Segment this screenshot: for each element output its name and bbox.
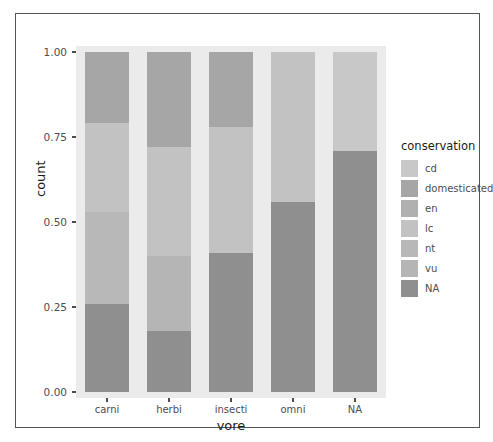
chart-figure: count 0.000.250.500.751.00 carniherbiins… — [0, 0, 493, 442]
legend-items: cddomesticatedenlcntvuNA — [401, 159, 493, 297]
y-axis-title: count — [33, 160, 48, 197]
legend-item-nt[interactable]: nt — [401, 239, 493, 257]
x-tick-label-NA: NA — [315, 405, 395, 415]
y-tick-mark — [72, 306, 76, 308]
bar-herbi[interactable] — [147, 52, 190, 398]
y-tick-label: 0.00 — [26, 387, 67, 398]
x-axis-title: vore — [76, 418, 386, 433]
legend-item-en[interactable]: en — [401, 199, 493, 217]
bar-segment-herbi-NA[interactable] — [147, 331, 190, 392]
y-tick-mark — [72, 221, 76, 223]
bar-segment-omni-NA[interactable] — [271, 202, 314, 392]
legend-item-NA[interactable]: NA — [401, 279, 493, 297]
legend-label-lc: lc — [425, 223, 433, 234]
legend-swatch-NA — [401, 280, 418, 297]
x-tick-mark — [106, 398, 108, 402]
bar-segment-carni-nt[interactable] — [85, 212, 128, 304]
x-tick-mark — [168, 398, 170, 402]
bar-segment-NA-lc[interactable] — [333, 52, 376, 151]
bar-omni[interactable] — [271, 52, 314, 398]
legend-title: conservation — [401, 139, 493, 153]
bar-segment-carni-domesticated[interactable] — [85, 52, 128, 123]
figure-frame: count 0.000.250.500.751.00 carniherbiins… — [15, 13, 480, 428]
bar-segment-insecti-lc[interactable] — [209, 127, 252, 253]
plot-panel — [76, 46, 386, 398]
y-tick-label: 0.50 — [26, 217, 67, 228]
legend-swatch-vu — [401, 260, 418, 277]
legend-swatch-cd — [401, 160, 418, 177]
x-tick-mark — [292, 398, 294, 402]
x-tick-mark — [354, 398, 356, 402]
y-tick-mark — [72, 391, 76, 393]
bar-segment-herbi-lc[interactable] — [147, 147, 190, 256]
y-tick-mark — [72, 136, 76, 138]
y-tick-label: 0.25 — [26, 302, 67, 313]
legend-label-nt: nt — [425, 243, 435, 254]
legend: conservation cddomesticatedenlcntvuNA — [401, 139, 493, 299]
legend-swatch-lc — [401, 220, 418, 237]
legend-swatch-domesticated — [401, 180, 418, 197]
bar-segment-carni-NA[interactable] — [85, 304, 128, 392]
y-tick-label: 1.00 — [26, 47, 67, 58]
y-tick-mark — [72, 51, 76, 53]
bar-NA[interactable] — [333, 52, 376, 398]
bar-segment-herbi-domesticated[interactable] — [147, 52, 190, 147]
y-tick-label: 0.75 — [26, 132, 67, 143]
legend-item-lc[interactable]: lc — [401, 219, 493, 237]
bar-segment-NA-NA[interactable] — [333, 151, 376, 392]
legend-item-vu[interactable]: vu — [401, 259, 493, 277]
legend-swatch-nt — [401, 240, 418, 257]
legend-item-cd[interactable]: cd — [401, 159, 493, 177]
legend-label-NA: NA — [425, 283, 439, 294]
legend-label-cd: cd — [425, 163, 437, 174]
legend-swatch-en — [401, 200, 418, 217]
legend-label-domesticated: domesticated — [425, 183, 493, 194]
bar-segment-carni-lc[interactable] — [85, 123, 128, 211]
bar-segment-herbi-vu[interactable] — [147, 256, 190, 331]
bar-carni[interactable] — [85, 52, 128, 398]
legend-label-vu: vu — [425, 263, 437, 274]
bar-insecti[interactable] — [209, 52, 252, 398]
bar-segment-insecti-NA[interactable] — [209, 253, 252, 392]
bar-segment-omni-lc[interactable] — [271, 52, 314, 202]
legend-item-domesticated[interactable]: domesticated — [401, 179, 493, 197]
legend-label-en: en — [425, 203, 438, 214]
bar-segment-insecti-domesticated[interactable] — [209, 52, 252, 127]
x-tick-mark — [230, 398, 232, 402]
